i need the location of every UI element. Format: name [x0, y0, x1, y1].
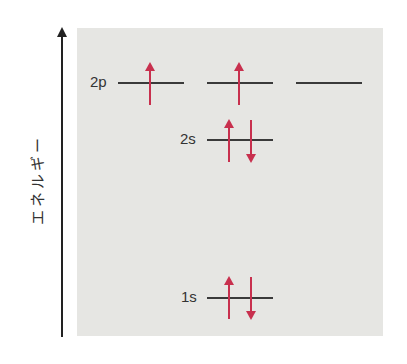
- electron-spin-up-icon: [238, 64, 240, 105]
- level-label-1s: 1s: [181, 288, 197, 305]
- orbital-2p-2: [207, 82, 273, 84]
- electron-spin-up-icon: [149, 64, 151, 105]
- orbital-2p-3: [296, 82, 362, 84]
- orbital-1s: [207, 297, 273, 299]
- electron-spin-up-icon: [228, 278, 230, 319]
- energy-axis-arrow-icon: [57, 27, 67, 37]
- orbital-2p-1: [118, 82, 184, 84]
- orbital-2s: [207, 139, 273, 141]
- electron-spin-down-icon: [250, 277, 252, 318]
- diagram-panel: [77, 28, 383, 336]
- electron-spin-down-icon: [250, 120, 252, 161]
- level-label-2s: 2s: [180, 130, 196, 147]
- electron-spin-up-icon: [228, 121, 230, 162]
- energy-axis-line: [61, 34, 63, 337]
- energy-axis-label: エネルギー: [26, 135, 47, 225]
- level-label-2p: 2p: [90, 73, 107, 90]
